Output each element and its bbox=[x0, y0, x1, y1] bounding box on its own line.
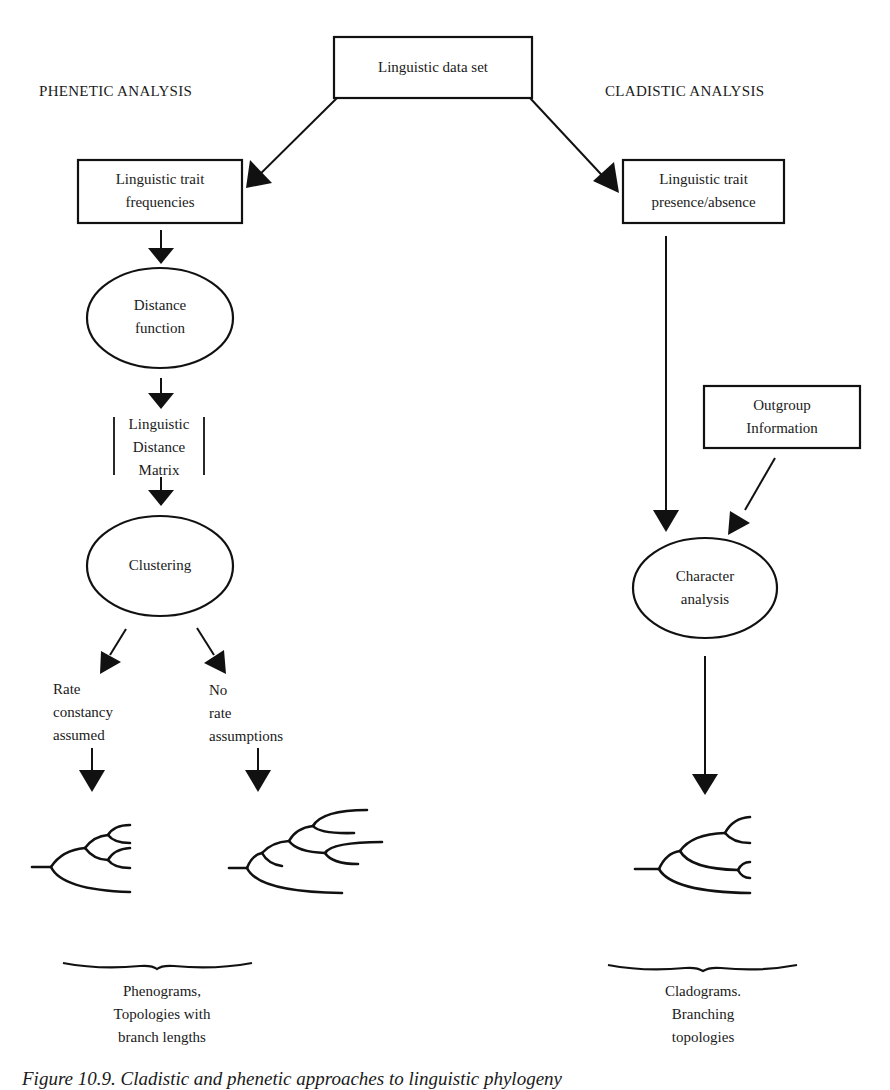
clustering-label: Clustering bbox=[87, 554, 233, 577]
trait-presence-label: Linguistic trait presence/absence bbox=[623, 168, 784, 214]
distance-matrix-line3: Matrix bbox=[114, 459, 204, 482]
distance-matrix-line2: Distance bbox=[114, 436, 204, 459]
rate-constancy-label: Rate constancy assumed bbox=[53, 678, 113, 747]
cladogram-brace bbox=[608, 965, 797, 971]
phenograms-line3: branch lengths bbox=[77, 1026, 247, 1049]
phenetic-analysis-header: PHENETIC ANALYSIS bbox=[39, 83, 192, 100]
trait-presence-line2: presence/absence bbox=[623, 191, 784, 214]
figure-caption: Figure 10.9. Cladistic and phenetic appr… bbox=[22, 1068, 562, 1090]
arrow-dataset-to-presence bbox=[530, 98, 612, 186]
distance-function-line1: Distance bbox=[87, 294, 233, 317]
rate-constancy-line3: assumed bbox=[53, 724, 113, 747]
phenogram-brace bbox=[63, 963, 252, 969]
arrow-clustering-to-no-rate bbox=[197, 628, 214, 655]
cladograms-line2: Branching bbox=[628, 1003, 778, 1026]
cladogram-tree bbox=[635, 817, 750, 893]
cladograms-label: Cladograms. Branching topologies bbox=[628, 980, 778, 1049]
trait-frequencies-line1: Linguistic trait bbox=[78, 168, 242, 191]
arrow-outgroup-to-character bbox=[745, 458, 775, 510]
rate-constancy-line1: Rate bbox=[53, 678, 113, 701]
cladograms-line3: topologies bbox=[628, 1026, 778, 1049]
character-analysis-label: Character analysis bbox=[633, 565, 777, 611]
phenograms-label: Phenograms, Topologies with branch lengt… bbox=[77, 980, 247, 1049]
no-rate-line1: No bbox=[209, 679, 283, 702]
phenograms-line2: Topologies with bbox=[77, 1003, 247, 1026]
distance-matrix-label: Linguistic Distance Matrix bbox=[114, 413, 204, 482]
character-analysis-line2: analysis bbox=[633, 588, 777, 611]
phenogram-additive-tree bbox=[229, 810, 382, 893]
no-rate-line3: assumptions bbox=[209, 725, 283, 748]
trait-frequencies-line2: frequencies bbox=[78, 191, 242, 214]
outgroup-label: Outgroup Information bbox=[704, 394, 860, 440]
trait-presence-line1: Linguistic trait bbox=[623, 168, 784, 191]
data-set-label: Linguistic data set bbox=[334, 56, 532, 79]
cladistic-analysis-header: CLADISTIC ANALYSIS bbox=[605, 83, 764, 100]
outgroup-line1: Outgroup bbox=[704, 394, 860, 417]
rate-constancy-line2: constancy bbox=[53, 701, 113, 724]
trait-frequencies-label: Linguistic trait frequencies bbox=[78, 168, 242, 214]
phenogram-ultrametric-tree bbox=[32, 825, 130, 892]
cladograms-line1: Cladograms. bbox=[628, 980, 778, 1003]
distance-function-line2: function bbox=[87, 317, 233, 340]
arrow-clustering-to-rate-constancy bbox=[110, 629, 126, 655]
outgroup-line2: Information bbox=[704, 417, 860, 440]
distance-matrix-line1: Linguistic bbox=[114, 413, 204, 436]
phenograms-line1: Phenograms, bbox=[77, 980, 247, 1003]
distance-function-label: Distance function bbox=[87, 294, 233, 340]
no-rate-label: No rate assumptions bbox=[209, 679, 283, 748]
character-analysis-line1: Character bbox=[633, 565, 777, 588]
no-rate-line2: rate bbox=[209, 702, 283, 725]
